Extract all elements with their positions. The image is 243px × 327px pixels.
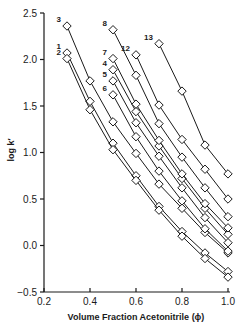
x-axis-title: Volume Fraction Acetonitrile (ϕ) [68,312,205,322]
y-axis-title: log k′ [6,138,16,161]
series-6: 6 [103,84,233,255]
diamond-marker [224,195,232,203]
x-tick-label: 0.2 [37,296,51,307]
diamond-marker [178,135,186,143]
y-tick-label: 1.5 [23,101,37,112]
chart: −0.50.00.51.01.52.02.50.20.40.60.81.0 12… [0,0,243,327]
y-tick-label: 0.5 [23,194,37,205]
diamond-marker [155,39,163,47]
x-tick-label: 0.8 [175,296,189,307]
diamond-marker [132,149,140,157]
x-tick-label: 0.4 [83,296,97,307]
diamond-marker [132,71,140,79]
x-tick-label: 1.0 [221,296,235,307]
diamond-marker [109,26,117,34]
series-label: 4 [103,59,108,68]
series-label: 7 [103,48,108,57]
series-7: 7 [103,48,233,232]
series-label: 5 [103,70,108,79]
y-tick-label: 2.5 [23,8,37,19]
series-label: 13 [144,33,153,42]
diamond-marker [86,77,94,85]
diamond-marker [132,119,140,127]
series-label: 8 [103,19,108,28]
y-tick-label: 1.0 [23,147,37,158]
diamond-marker [109,118,117,126]
series-label: 12 [121,44,130,53]
x-tick-label: 0.6 [129,296,143,307]
diamond-marker [201,165,209,173]
series-line [113,30,228,217]
diamond-marker [132,132,140,140]
diamond-marker [109,91,117,99]
diamond-marker [63,22,71,30]
series-label: 2 [57,48,62,57]
y-tick-label: −0.5 [17,287,37,298]
diamond-marker [155,119,163,127]
series-line [113,59,228,228]
series-label: 6 [103,84,108,93]
diamond-marker [109,54,117,62]
y-tick-label: 0.0 [23,240,37,251]
diamond-marker [178,184,186,192]
series-line [67,53,228,272]
diamond-marker [63,54,71,62]
diamond-marker [178,153,186,161]
diamond-marker [155,136,163,144]
diamond-marker [109,66,117,74]
diamond-marker [132,51,140,59]
series-label: 3 [57,15,62,24]
diamond-marker [109,77,117,85]
series-layer: 123456781213 [57,15,233,281]
diamond-marker [178,87,186,95]
diamond-marker [155,152,163,160]
diamond-marker [155,101,163,109]
diamond-marker [155,167,163,175]
y-tick-label: 2.0 [23,54,37,65]
series-1: 1 [57,42,233,276]
